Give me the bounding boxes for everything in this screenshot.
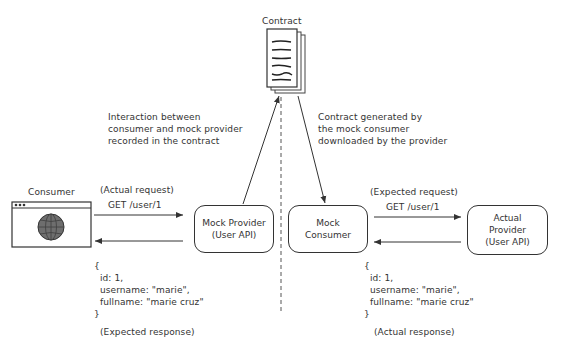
diagram-connectors <box>0 0 565 354</box>
left-response-label: (Expected response) <box>100 326 195 338</box>
contract-label: Contract <box>262 15 302 27</box>
right-response-body: { id: 1, username: "marie", fullname: "m… <box>364 260 474 320</box>
document-stack-icon <box>267 29 305 93</box>
browser-globe-icon <box>12 202 91 247</box>
left-request-path: GET /user/1 <box>108 199 162 211</box>
arrow-to-contract <box>243 96 279 204</box>
right-request-path: GET /user/1 <box>386 201 440 213</box>
right-request-label: (Expected request) <box>370 186 458 198</box>
left-annotation: Interaction between consumer and mock pr… <box>108 111 243 147</box>
left-request-label: (Actual request) <box>100 184 174 196</box>
consumer-label: Consumer <box>28 186 75 198</box>
left-response-body: { id: 1, username: "marie", fullname: "m… <box>94 260 204 320</box>
mock-provider-box: Mock Provider (User API) <box>194 205 274 253</box>
right-annotation: Contract generated by the mock consumer … <box>318 111 447 147</box>
actual-provider-box: Actual Provider (User API) <box>467 205 548 255</box>
right-response-label: (Actual response) <box>374 326 455 338</box>
mock-consumer-box: Mock Consumer <box>288 205 368 253</box>
